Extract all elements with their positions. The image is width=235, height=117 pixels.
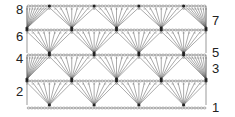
row-label-2: 2	[16, 85, 23, 98]
row-label-7: 7	[212, 14, 219, 27]
row-label-6: 6	[16, 30, 23, 43]
row-label-4: 4	[16, 52, 23, 65]
row-label-8: 8	[16, 3, 23, 16]
crochet-chart	[0, 0, 235, 117]
row-label-5: 5	[212, 46, 219, 59]
row-label-3: 3	[212, 62, 219, 75]
row-label-1: 1	[212, 101, 219, 114]
